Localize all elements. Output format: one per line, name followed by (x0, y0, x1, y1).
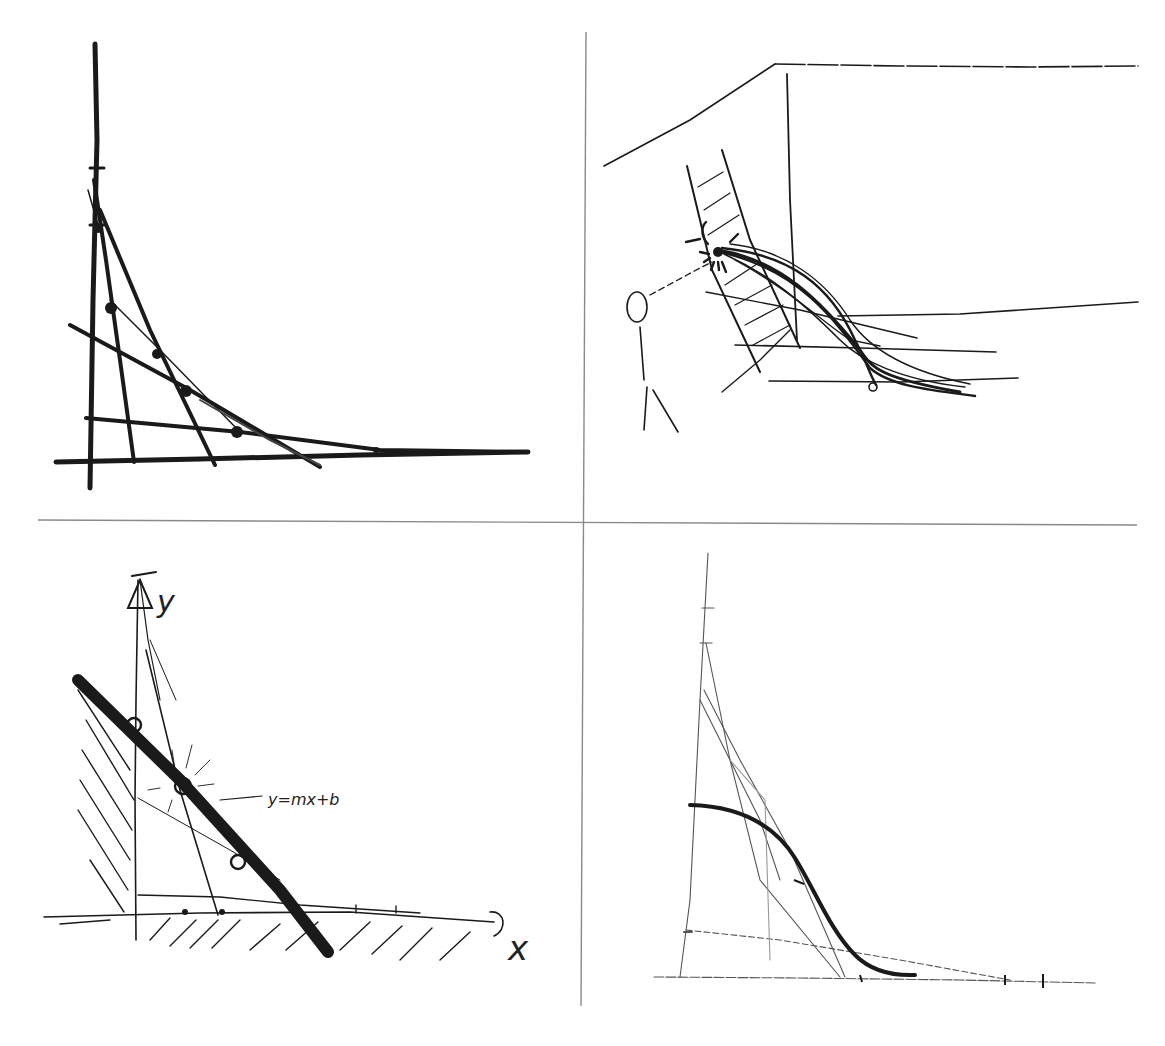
panel-bottom-right-curve-sketch (0, 0, 1165, 1046)
s-curve (690, 805, 915, 975)
x-axis-line (654, 977, 1095, 983)
y-axis-line (680, 553, 708, 977)
sketch-page: y x y=mx+b (0, 0, 1165, 1046)
